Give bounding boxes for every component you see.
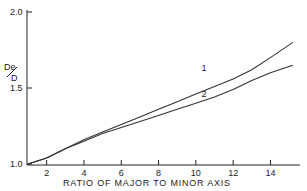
x-tick-label: 10	[191, 168, 201, 178]
x-tick-label: 2	[44, 168, 49, 178]
x-tick-label: 8	[156, 168, 161, 178]
chart: 1.01.52.0 2468101214 12 De D RATIO OF MA…	[0, 0, 307, 191]
y-ticks: 1.01.52.0	[10, 7, 32, 169]
y-axis-label: De D	[4, 62, 18, 83]
y-tick-label: 2.0	[10, 7, 23, 17]
curve-labels: 12	[201, 63, 206, 99]
x-tick-label: 14	[265, 168, 275, 178]
series	[28, 42, 293, 164]
x-tick-label: 4	[81, 168, 86, 178]
x-axis-label: RATIO OF MAJOR TO MINOR AXIS	[63, 178, 231, 188]
x-ticks: 2468101214	[44, 160, 275, 178]
y-tick-label: 1.5	[10, 83, 23, 93]
x-tick-label: 6	[119, 168, 124, 178]
x-tick-label: 12	[228, 168, 238, 178]
y-label-denominator: D	[11, 73, 18, 83]
curve-label: 1	[201, 63, 206, 73]
y-tick-label: 1.0	[10, 159, 23, 169]
curve-2	[28, 65, 293, 164]
axes	[27, 10, 300, 165]
curve-1	[28, 42, 293, 164]
curve-label: 2	[201, 89, 206, 99]
